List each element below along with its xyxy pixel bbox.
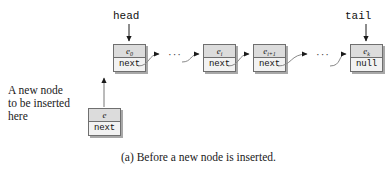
node-ek: ek null xyxy=(350,44,383,72)
node-ek-value: ek xyxy=(351,45,382,58)
new-node-description-line-1: A new node xyxy=(8,84,63,97)
node-ei: ei next xyxy=(203,44,236,72)
node-ei-next: next xyxy=(204,58,235,71)
node-e0: e0 next xyxy=(113,44,146,72)
new-node-description-line-2: to be inserted xyxy=(8,97,70,110)
node-new-value: e xyxy=(89,109,120,122)
link-ellipsis-to-ei xyxy=(182,54,199,62)
figure-caption: (a) Before a new node is inserted. xyxy=(121,150,276,164)
node-ei-plus-1-value: ei+1 xyxy=(254,45,285,58)
node-new-next: next xyxy=(89,122,120,135)
node-ei-plus-1-next: next xyxy=(254,58,285,71)
node-ei-plus-1: ei+1 next xyxy=(253,44,286,72)
node-ek-value-subscript: k xyxy=(367,51,370,57)
node-e0-value: e0 xyxy=(114,45,145,58)
node-e0-next: next xyxy=(114,58,145,71)
node-ei-plus-1-value-subscript: i+1 xyxy=(267,51,276,57)
link-ellipsis-to-ek xyxy=(330,54,346,66)
linked-list-insertion-figure: head tail A new node to be inserted here… xyxy=(0,0,392,175)
node-new: e next xyxy=(88,108,121,136)
node-e0-value-subscript: 0 xyxy=(130,51,133,57)
node-ei-value: ei xyxy=(204,45,235,58)
node-ei-value-subscript: i xyxy=(221,51,223,57)
ellipsis-right: ··· xyxy=(316,49,330,60)
node-ek-next: null xyxy=(351,58,382,71)
tail-pointer-label: tail xyxy=(345,10,371,22)
new-node-description-line-3: here xyxy=(8,110,28,123)
ellipsis-left: ··· xyxy=(168,49,182,60)
head-pointer-label: head xyxy=(113,10,139,22)
node-new-value-text: e xyxy=(103,110,107,120)
